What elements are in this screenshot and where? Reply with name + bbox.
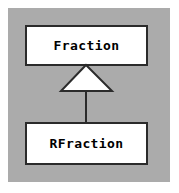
uml-class-name-rfraction: RFraction [49, 137, 123, 150]
uml-class-box-fraction[interactable]: Fraction [25, 25, 148, 66]
uml-class-name-fraction: Fraction [54, 39, 120, 52]
uml-class-box-rfraction[interactable]: RFraction [25, 122, 148, 165]
diagram-canvas: Fraction RFraction [0, 0, 179, 193]
